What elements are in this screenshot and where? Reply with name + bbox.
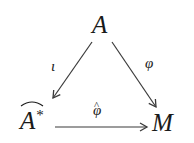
phi-text: φ	[145, 55, 153, 71]
edge-label-phi-hat: ^ φ	[93, 103, 101, 118]
node-a-hat-superscript: *	[36, 107, 44, 123]
node-m-text: M	[152, 109, 173, 136]
commutative-diagram: A A* M ι φ ^ φ	[0, 0, 194, 143]
node-a-hat-text: A	[20, 107, 35, 134]
hat-icon: ^	[94, 100, 99, 111]
wide-hat-icon	[20, 99, 44, 107]
node-a: A	[92, 12, 107, 37]
arrow-phi	[112, 42, 156, 107]
edge-label-phi: φ	[145, 56, 153, 71]
node-a-hat-star: A*	[20, 108, 44, 133]
edge-label-iota: ι	[51, 59, 55, 74]
node-m: M	[152, 110, 173, 135]
node-a-text: A	[92, 11, 107, 38]
arrow-iota	[53, 42, 92, 98]
iota-text: ι	[51, 58, 55, 74]
